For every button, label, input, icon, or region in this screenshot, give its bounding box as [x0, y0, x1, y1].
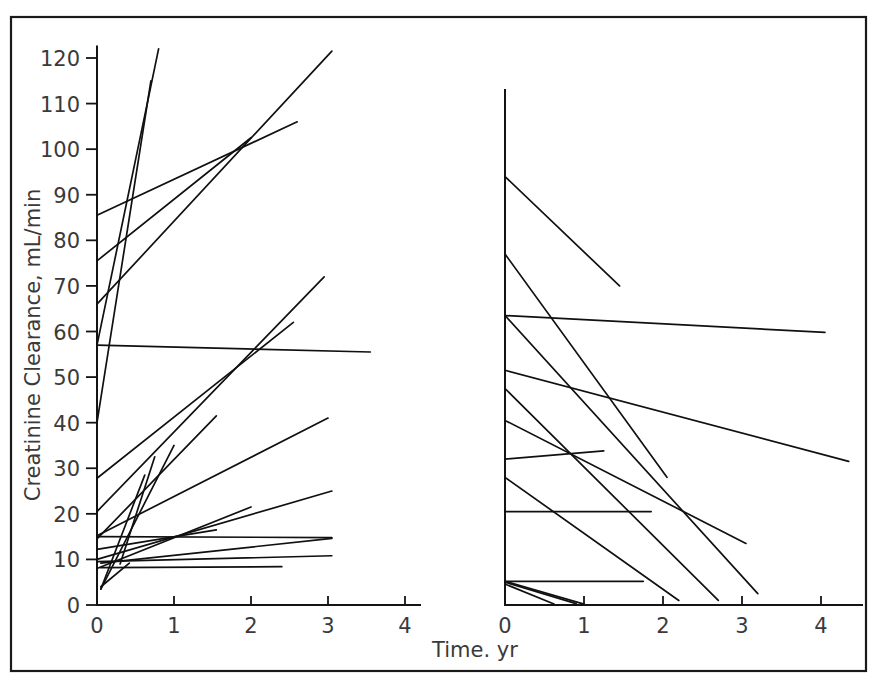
data-line-subject-L16 [97, 537, 332, 538]
y-tick-label-90: 90 [53, 184, 80, 208]
y-axis-title: Creatinine Clearance, mL/min [21, 189, 45, 502]
y-tick-label-60: 60 [53, 321, 80, 345]
y-tick-label-110: 110 [40, 93, 80, 117]
x-tick-label-panel-2-0: 0 [498, 614, 511, 638]
data-line-subject-R05 [505, 370, 849, 461]
x-tick-label-panel-1-2: 2 [244, 614, 257, 638]
data-line-subject-R03 [505, 316, 825, 333]
x-tick-label-panel-1-3: 3 [321, 614, 334, 638]
data-line-subject-L19 [101, 567, 282, 568]
axis-labels-group: 01234010203040506070809010011012001234 [40, 47, 828, 638]
y-tick-label-120: 120 [40, 47, 80, 71]
figure-container: 01234010203040506070809010011012001234 C… [0, 0, 878, 688]
chart-canvas: 01234010203040506070809010011012001234 C… [0, 0, 878, 688]
data-line-subject-R01 [505, 177, 620, 286]
data-line-subject-R06 [505, 388, 718, 600]
data-line-subject-L15 [97, 530, 216, 550]
x-tick-label-panel-2-1: 1 [577, 614, 590, 638]
y-tick-label-100: 100 [40, 138, 80, 162]
data-line-subject-L12 [101, 475, 145, 589]
data-line-subject-L07 [97, 277, 324, 512]
data-line-subject-L05 [97, 122, 297, 215]
data-line-subject-R02 [505, 254, 667, 477]
y-tick-label-70: 70 [53, 275, 80, 299]
y-tick-label-20: 20 [53, 503, 80, 527]
y-tick-label-40: 40 [53, 412, 80, 436]
y-tick-label-10: 10 [53, 548, 80, 572]
x-tick-label-panel-1-0: 0 [90, 614, 103, 638]
x-tick-label-panel-1-4: 4 [398, 614, 411, 638]
data-line-subject-L02 [97, 81, 151, 423]
axes-group [86, 47, 862, 605]
data-line-subject-L18 [97, 556, 332, 562]
y-tick-label-50: 50 [53, 366, 80, 390]
y-tick-label-0: 0 [67, 594, 80, 618]
data-line-subject-R13 [505, 582, 576, 603]
data-line-subject-R07 [505, 420, 746, 543]
data-line-subject-L21 [101, 563, 129, 587]
figure-border [11, 17, 866, 671]
data-line-subject-R04 [505, 316, 758, 594]
x-tick-label-panel-1-1: 1 [167, 614, 180, 638]
y-tick-label-30: 30 [53, 457, 80, 481]
x-tick-label-panel-2-4: 4 [814, 614, 827, 638]
data-line-subject-R08 [505, 451, 604, 459]
data-line-subject-L09 [97, 416, 216, 539]
data-lines-group [97, 49, 849, 604]
x-tick-label-panel-2-3: 3 [735, 614, 748, 638]
x-axis-title: Time. yr [431, 638, 518, 662]
data-line-subject-L04 [97, 138, 251, 261]
y-tick-label-80: 80 [53, 229, 80, 253]
data-line-subject-L06 [97, 345, 370, 352]
x-tick-label-panel-2-2: 2 [656, 614, 669, 638]
